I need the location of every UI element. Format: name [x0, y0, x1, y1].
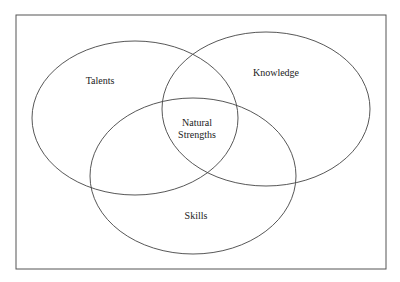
- venn-diagram: Talents Knowledge Skills Natural Strengt…: [0, 0, 400, 282]
- knowledge-label: Knowledge: [253, 67, 300, 78]
- knowledge-circle: [162, 32, 370, 186]
- natural-strengths-label-line1: Natural: [182, 117, 212, 128]
- skills-label: Skills: [185, 210, 208, 221]
- talents-label: Talents: [86, 75, 115, 86]
- diagram-frame: [16, 15, 386, 269]
- natural-strengths-label-line2: Strengths: [178, 129, 216, 140]
